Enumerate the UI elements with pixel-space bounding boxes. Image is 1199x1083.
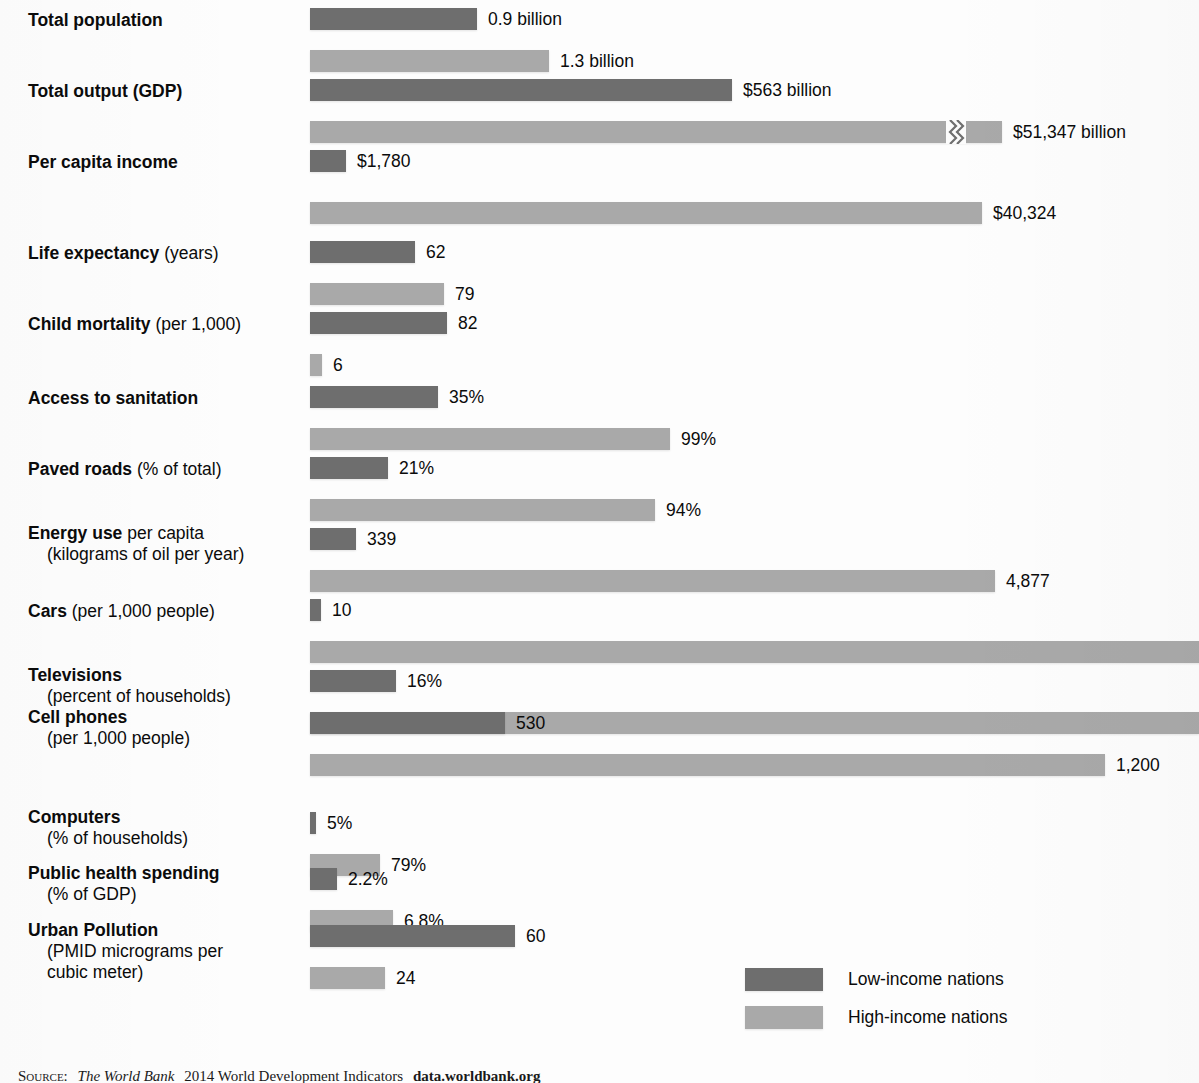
row-label: Child mortality (per 1,000) [28,314,298,335]
bar-high-income [310,428,670,450]
value-label-low-income: $1,780 [357,150,411,172]
row-label-lead: Urban Pollution [28,920,158,940]
row-label-lead: Computers [28,807,120,827]
value-label-low-income: 82 [458,312,477,334]
source-publisher: The World Bank [78,1068,175,1083]
value-label-high-income: 79% [391,854,426,876]
legend-swatch-high-income [745,1006,823,1029]
row-label-lead: Paved roads [28,459,132,479]
bar-low-income [310,241,415,263]
row-label-lead: Cell phones [28,707,127,727]
value-label-low-income: 35% [449,386,484,408]
value-label-high-income: $40,324 [993,202,1056,224]
row-label: Total population [28,10,298,31]
row-label-line3: cubic meter) [28,962,298,983]
row-label-line2: (kilograms of oil per year) [28,544,298,565]
axis-break-marker [946,120,966,144]
legend-label-low-income: Low-income nations [848,968,1004,991]
row-label: Access to sanitation [28,388,298,409]
bar-high-income [310,202,982,224]
bar-low-income [310,150,346,172]
row-label: Urban Pollution(PMID micrograms percubic… [28,920,298,983]
row-label-lead: Televisions [28,665,122,685]
source-citation: Source: The World Bank 2014 World Develo… [18,1068,1178,1083]
row-label-qualifier: per capita [122,523,204,543]
value-label-low-income: 530 [516,712,545,734]
row-label: Life expectancy (years) [28,243,298,264]
bar-high-income [310,499,655,521]
value-label-high-income: 24 [396,967,415,989]
row-label-lead: Per capita income [28,152,178,172]
bar-low-income [310,457,388,479]
bar-low-income [310,312,447,334]
source-url[interactable]: data.worldbank.org [413,1068,541,1083]
row-label: Public health spending(% of GDP) [28,863,298,905]
bar-high-income [310,754,1105,776]
value-label-high-income: 79 [455,283,474,305]
source-title: 2014 World Development Indicators [184,1068,403,1083]
bar-high-income [310,967,385,989]
value-label-low-income: 0.9 billion [488,8,562,30]
bar-low-income [310,925,515,947]
row-label-lead: Total population [28,10,163,30]
row-label-lead: Access to sanitation [28,388,198,408]
row-label-qualifier: (years) [159,243,218,263]
source-prefix: Source: [18,1068,68,1083]
row-label: Cars (per 1,000 people) [28,601,298,622]
value-label-high-income: 1,200 [1116,754,1160,776]
value-label-low-income: 62 [426,241,445,263]
value-label-low-income: 60 [526,925,545,947]
row-label: Computers(% of households) [28,807,298,849]
row-label-lead: Public health spending [28,863,220,883]
row-label-line2: (PMID micrograms per [28,941,298,962]
value-label-high-income: 99% [681,428,716,450]
value-label-low-income: 16% [407,670,442,692]
row-label: Cell phones(per 1,000 people) [28,707,298,749]
figure-page: Total population0.9 billion1.3 billionTo… [0,0,1199,1083]
bar-low-income [310,79,732,101]
row-label-line2: (% of GDP) [28,884,298,905]
row-label-line2: (per 1,000 people) [28,728,298,749]
row-label: Energy use per capita(kilograms of oil p… [28,523,298,565]
bar-low-income [310,8,477,30]
bar-low-income [310,599,321,621]
row-label-line2: (percent of households) [28,686,298,707]
bar-high-income [310,50,549,72]
bar-high-income [310,641,1199,663]
value-label-high-income: 94% [666,499,701,521]
value-label-low-income: $563 billion [743,79,832,101]
row-label: Paved roads (% of total) [28,459,298,480]
bar-low-income [310,712,505,734]
chart-legend: Low-income nations High-income nations [745,968,1175,1032]
row-label-lead: Total output (GDP) [28,81,182,101]
row-label-qualifier: (per 1,000 people) [67,601,215,621]
bar-low-income [310,528,356,550]
row-label: Per capita income [28,152,298,173]
row-label: Televisions(percent of households) [28,665,298,707]
value-label-high-income: 1.3 billion [560,50,634,72]
value-label-high-income: $51,347 billion [1013,121,1126,143]
bar-high-income [310,121,1002,143]
value-label-low-income: 10 [332,599,351,621]
value-label-low-income: 21% [399,457,434,479]
bar-low-income [310,868,337,890]
row-label-lead: Cars [28,601,67,621]
row-label-lead: Energy use [28,523,122,543]
bar-high-income [310,354,322,376]
row-label-lead: Child mortality [28,314,151,334]
value-label-high-income: 4,877 [1006,570,1050,592]
value-label-high-income: 6 [333,354,343,376]
row-label-qualifier: (per 1,000) [151,314,241,334]
bar-high-income [310,283,444,305]
bar-low-income [310,812,316,834]
legend-swatch-low-income [745,968,823,991]
value-label-low-income: 339 [367,528,396,550]
value-label-low-income: 2.2% [348,868,388,890]
row-label-qualifier: (% of total) [132,459,221,479]
row-label-lead: Life expectancy [28,243,159,263]
bar-low-income [310,670,396,692]
bar-low-income [310,386,438,408]
bar-high-income [310,570,995,592]
legend-label-high-income: High-income nations [848,1006,1008,1029]
row-label: Total output (GDP) [28,81,298,102]
